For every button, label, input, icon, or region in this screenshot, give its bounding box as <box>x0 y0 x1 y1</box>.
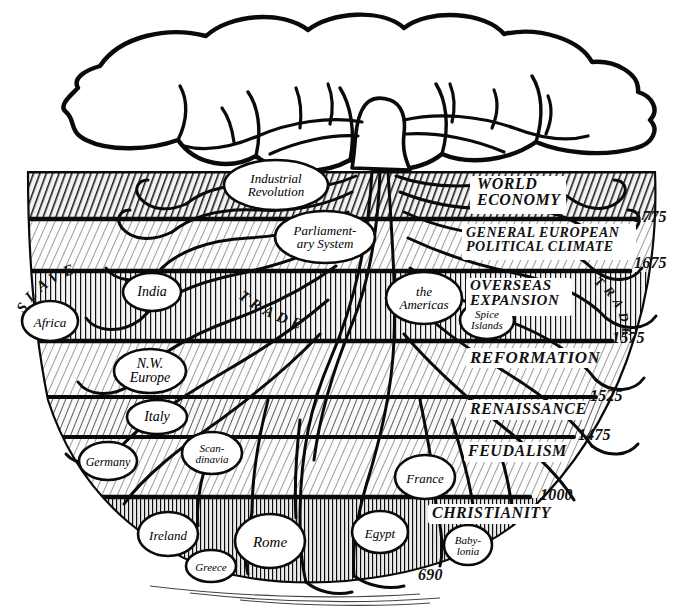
node-germany: Germany <box>79 452 137 472</box>
node-nw-europe: N.W. Europe <box>114 353 186 389</box>
date-marker-1775: 1775 <box>634 209 667 225</box>
node-africa: Africa <box>22 312 78 332</box>
ground-strokes <box>150 586 440 605</box>
date-marker-1675: 1675 <box>634 255 667 271</box>
node-france: France <box>395 468 455 488</box>
node-italy: Italy <box>127 407 187 427</box>
tree-of-history-illustration: SLAVE TRADE TRADE <box>0 0 681 616</box>
tree-trunk <box>352 98 410 170</box>
node-industrial-revolution: Industrial Revolution <box>224 165 328 205</box>
era-label-world-economy: WORLD ECONOMY <box>477 176 561 207</box>
node-india: India <box>123 282 181 302</box>
date-marker-1575: 1575 <box>612 330 645 346</box>
node-ireland: Ireland <box>138 525 198 545</box>
date-marker-1475: 1475 <box>578 427 611 443</box>
date-marker-1000: 1000 <box>540 487 573 503</box>
era-label-feudalism: FEUDALISM <box>468 443 567 459</box>
date-marker-690: 690 <box>418 567 443 583</box>
node-rome: Rome <box>240 531 300 553</box>
date-marker-1525: 1525 <box>590 388 623 404</box>
era-label-reformation: REFORMATION <box>470 349 600 366</box>
node-babylonia: Baby- lonia <box>444 531 492 561</box>
node-spice-islands: Spice Islands <box>460 304 514 336</box>
era-label-general-european: GENERAL EUROPEAN POLITICAL CLIMATE <box>466 226 619 253</box>
diagram-canvas: SLAVE TRADE TRADE WORLD ECONOMY GENERAL … <box>0 0 681 616</box>
era-label-overseas-expansion: OVERSEAS EXPANSION <box>470 278 559 307</box>
era-label-renaissance: RENAISSANCE <box>470 401 587 417</box>
node-egypt: Egypt <box>352 523 408 543</box>
node-scandinavia: Scan- dinavia <box>182 438 242 470</box>
node-greece: Greece <box>186 558 236 576</box>
era-label-christianity: CHRISTIANITY <box>432 505 551 521</box>
node-the-americas: the Americas <box>386 279 462 317</box>
node-parliamentary-system: Parliament- ary System <box>275 217 375 257</box>
